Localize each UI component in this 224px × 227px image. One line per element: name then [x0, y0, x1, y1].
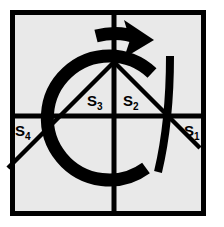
figure-root: S 1 S 2 S 3 S 4 [0, 0, 224, 227]
region-label-s4-subscript: 4 [25, 131, 31, 142]
region-label-s2-base: S [123, 92, 133, 109]
region-label-s3-base: S [87, 92, 97, 109]
region-label-s2-subscript: 2 [133, 101, 139, 112]
region-label-s1-subscript: 1 [194, 131, 200, 142]
region-label-s3-subscript: 3 [97, 101, 103, 112]
region-label-s4-base: S [15, 122, 25, 139]
region-label-s1-base: S [184, 122, 194, 139]
geometry-figure: S 1 S 2 S 3 S 4 [0, 0, 224, 227]
